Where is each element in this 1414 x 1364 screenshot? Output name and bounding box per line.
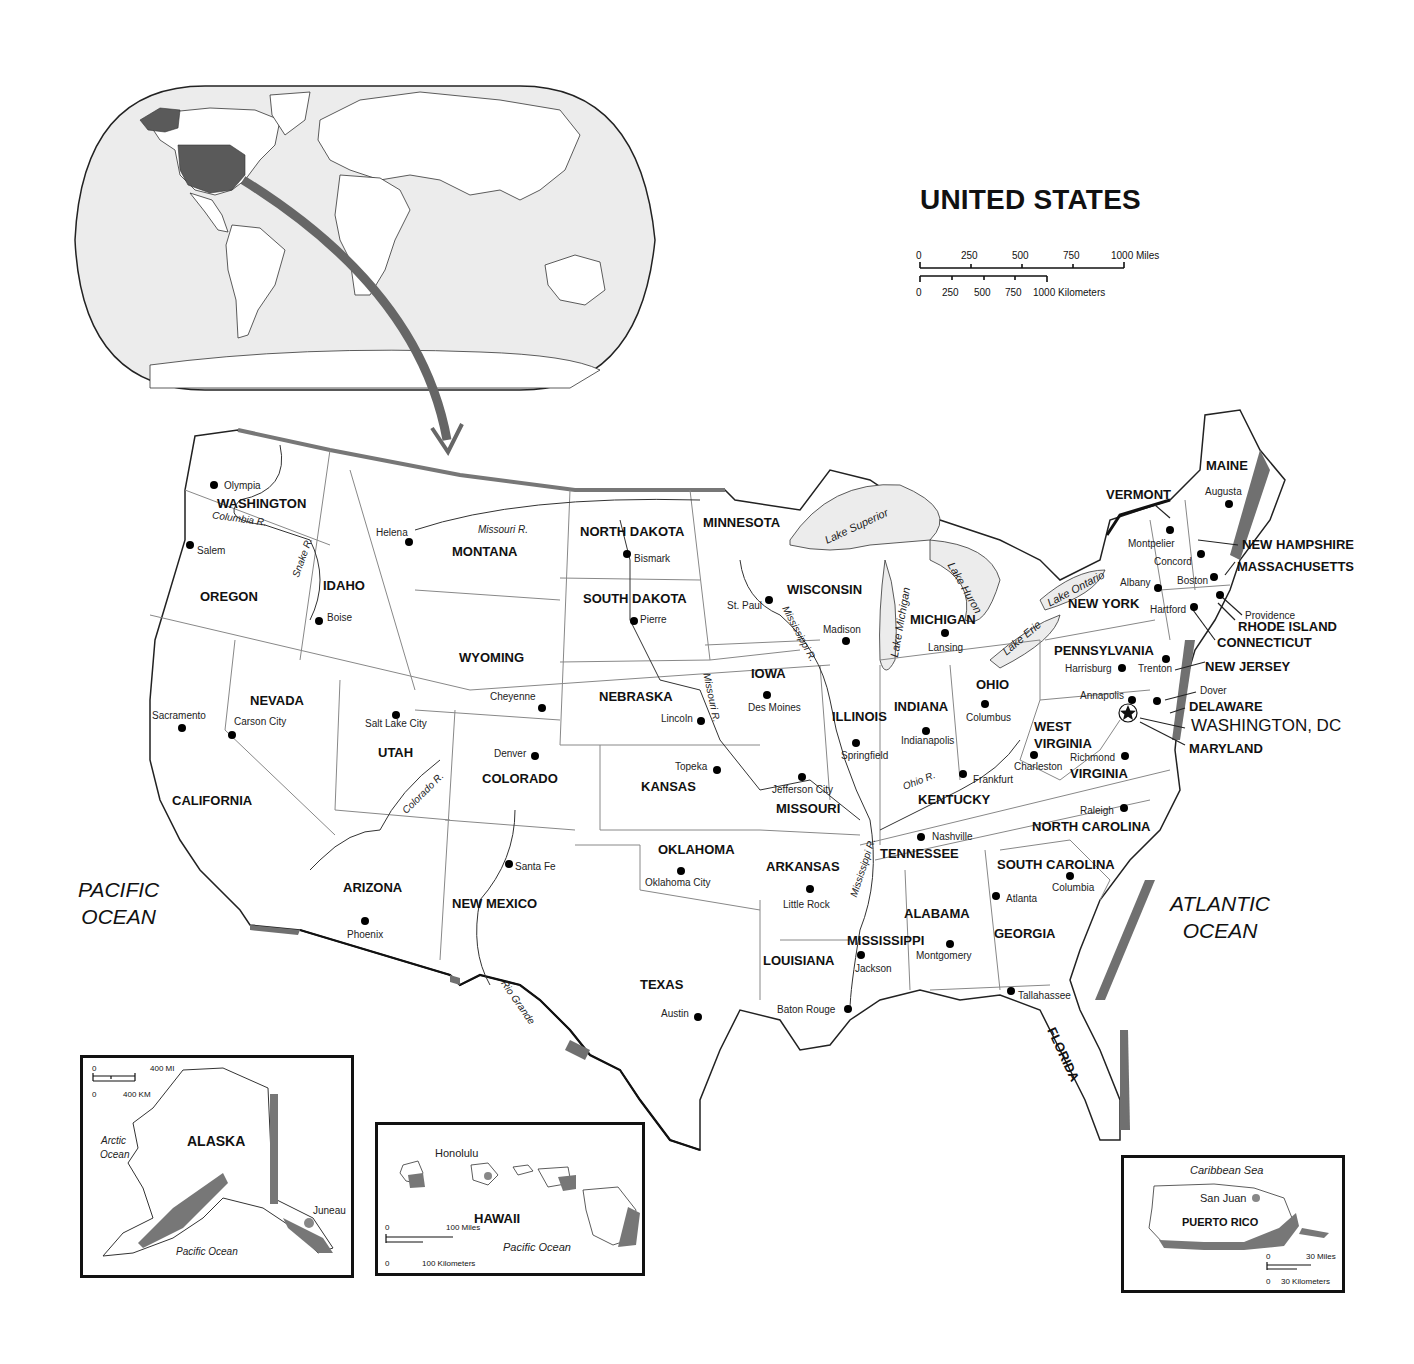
scale-mi-750: 750 — [1063, 250, 1080, 261]
capital-dot-providence — [1216, 591, 1224, 599]
state-mississippi: MISSISSIPPI — [847, 933, 924, 948]
state-maryland: MARYLAND — [1189, 741, 1263, 756]
capital-dover: Dover — [1200, 685, 1227, 696]
pacific-line1: PACIFIC — [78, 876, 159, 903]
capital-springfield: Springfield — [841, 750, 888, 761]
state-north-dakota: NORTH DAKOTA — [580, 524, 684, 539]
capital-denver: Denver — [494, 748, 526, 759]
state-maine: MAINE — [1206, 458, 1248, 473]
capital-jefferson-city: Jefferson City — [772, 784, 833, 795]
state-west-virginia-line1: WEST — [1034, 719, 1072, 734]
capital-lansing: Lansing — [928, 642, 963, 653]
capital-des-moines: Des Moines — [748, 702, 801, 713]
state-massachusetts: MASSACHUSETTS — [1237, 559, 1354, 574]
pacific-line2: OCEAN — [78, 903, 159, 930]
capital-dot-salem — [186, 541, 194, 549]
pr-scale-km-30: 30 Kilometers — [1281, 1277, 1330, 1286]
capital-montpelier: Montpelier — [1128, 538, 1175, 549]
capital-dot-baton-rouge — [844, 1005, 852, 1013]
capital-dot-pierre — [630, 617, 638, 625]
capital-dot-topeka — [713, 766, 721, 774]
capital-madison: Madison — [823, 624, 861, 635]
capital-harrisburg: Harrisburg — [1065, 663, 1112, 674]
capital-dot-trenton — [1162, 655, 1170, 663]
capital-dot-springfield — [852, 739, 860, 747]
capital-dot-raleigh — [1120, 804, 1128, 812]
state-alaska: ALASKA — [187, 1133, 245, 1149]
state-new-york: NEW YORK — [1068, 596, 1139, 611]
capital-dot-dover — [1153, 697, 1161, 705]
state-vermont: VERMONT — [1106, 487, 1171, 502]
capital-salt-lake-city: Salt Lake City — [365, 718, 427, 729]
state-west-virginia-line2: VIRGINIA — [1034, 736, 1092, 751]
state-indiana: INDIANA — [894, 699, 948, 714]
capital-nashville: Nashville — [932, 831, 973, 842]
capital-honolulu: Honolulu — [435, 1147, 478, 1159]
capital-dot-des-moines — [763, 691, 771, 699]
capital-star-marker — [1119, 704, 1137, 722]
state-georgia: GEORGIA — [994, 926, 1055, 941]
capital-dot-little-rock — [806, 885, 814, 893]
alaska-scale-km-400: 400 KM — [123, 1090, 151, 1099]
puerto-rico-inset: Caribbean Sea San Juan PUERTO RICO 0 30 … — [1121, 1155, 1345, 1293]
scale-km-0: 0 — [916, 287, 922, 298]
capital-dot-austin — [694, 1013, 702, 1021]
state-washington: WASHINGTON — [217, 496, 306, 511]
atlantic-line2: OCEAN — [1170, 917, 1270, 944]
capital-phoenix: Phoenix — [347, 929, 383, 940]
scale-bar — [920, 262, 1124, 282]
capital-dot-richmond — [1121, 752, 1129, 760]
state-new-jersey: NEW JERSEY — [1205, 659, 1290, 674]
scale-km-250: 250 — [942, 287, 959, 298]
state-missouri: MISSOURI — [776, 801, 840, 816]
capital-trenton: Trenton — [1138, 663, 1172, 674]
pr-scale-mi-30: 30 Miles — [1306, 1252, 1336, 1261]
capital-pierre: Pierre — [640, 614, 667, 625]
capital-providence: Providence — [1245, 610, 1295, 621]
state-south-carolina: SOUTH CAROLINA — [997, 857, 1115, 872]
state-ohio: OHIO — [976, 677, 1009, 692]
capital-boise: Boise — [327, 612, 352, 623]
capital-columbia: Columbia — [1052, 882, 1094, 893]
capital-dot-jackson — [857, 951, 865, 959]
capital-dot-augusta — [1225, 500, 1233, 508]
capital-albany: Albany — [1120, 577, 1151, 588]
state-iowa: IOWA — [751, 666, 786, 681]
alaska-pacific-ocean-label: Pacific Ocean — [176, 1246, 238, 1257]
capital-raleigh: Raleigh — [1080, 805, 1114, 816]
state-new-mexico: NEW MEXICO — [452, 896, 537, 911]
capital-dot-phoenix — [361, 917, 369, 925]
capital-dot-annapolis — [1128, 696, 1136, 704]
state-puerto-rico: PUERTO RICO — [1182, 1216, 1258, 1228]
state-minnesota: MINNESOTA — [703, 515, 780, 530]
arctic-ocean-label-1: Arctic — [101, 1135, 126, 1146]
scale-mi-500: 500 — [1012, 250, 1029, 261]
state-idaho: IDAHO — [323, 578, 365, 593]
capital-atlanta: Atlanta — [1006, 893, 1037, 904]
capital-dot-boise — [315, 617, 323, 625]
state-alabama: ALABAMA — [904, 906, 970, 921]
capital-indianapolis: Indianapolis — [901, 735, 954, 746]
capital-dot-carson-city — [228, 731, 236, 739]
capital-hartford: Hartford — [1150, 604, 1186, 615]
capital-concord: Concord — [1154, 556, 1192, 567]
hawaii-scale-mi-100: 100 Miles — [446, 1223, 480, 1232]
state-illinois: ILLINOIS — [832, 709, 887, 724]
capital-boston: Boston — [1177, 575, 1208, 586]
pacific-ocean-label: PACIFIC OCEAN — [78, 876, 159, 930]
scale-km-750: 750 — [1005, 287, 1022, 298]
capital-dot-indianapolis — [922, 727, 930, 735]
capital-salem: Salem — [197, 545, 225, 556]
capital-dot-concord — [1197, 550, 1205, 558]
capital-frankfurt: Frankfurt — [973, 774, 1013, 785]
capital-dot-bismark — [623, 550, 631, 558]
world-locator-map — [75, 86, 655, 390]
capital-oklahoma-city: Oklahoma City — [645, 877, 711, 888]
hawaii-scale-km-0: 0 — [385, 1259, 389, 1268]
state-california: CALIFORNIA — [172, 793, 252, 808]
state-michigan: MICHIGAN — [910, 612, 976, 627]
pr-scale-mi-0: 0 — [1266, 1252, 1270, 1261]
capital-dot-santa-fe — [505, 860, 513, 868]
pr-scale-km-0: 0 — [1266, 1277, 1270, 1286]
capital-dot-charleston — [1030, 751, 1038, 759]
